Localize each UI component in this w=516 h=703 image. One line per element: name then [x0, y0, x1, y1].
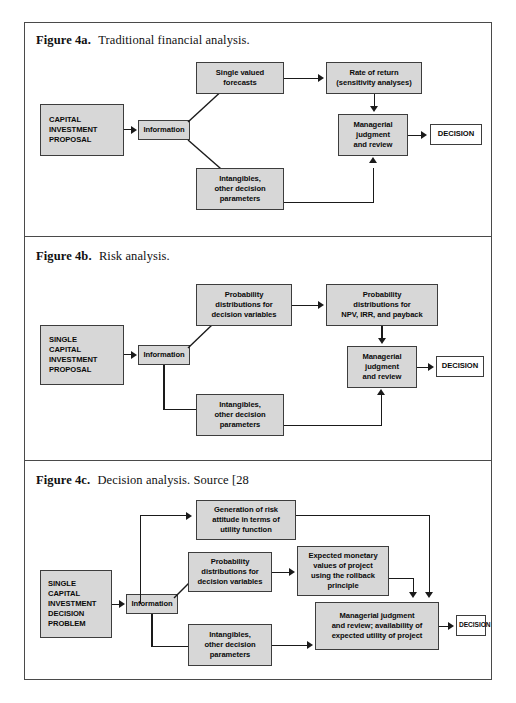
- fig4c-emv-line2: values of project: [300, 561, 386, 571]
- figure-4c-caption-label: Figure 4c.: [36, 473, 90, 487]
- fig4c-decision-label: DECISION: [459, 621, 483, 630]
- fig4a-arrowhead-managerial-bottom: [369, 157, 377, 163]
- figure-4b-caption-label: Figure 4b.: [36, 249, 92, 263]
- figure-4a-caption-text: Traditional financial analysis.: [94, 33, 250, 47]
- fig4a-intangibles-line2: other decision: [199, 184, 281, 194]
- fig4b-arrowhead-npv: [318, 301, 324, 309]
- fig4c-line-intangibles-to-managerial: [272, 645, 310, 646]
- fig4a-arrowhead-decision: [421, 131, 427, 139]
- fig4b-line-intangibles-right: [284, 425, 382, 426]
- fig4c-arrowhead-information: [119, 600, 125, 608]
- fig4a-arrowhead-managerial-top: [370, 106, 378, 112]
- fig4a-line-intangibles-right: [284, 202, 374, 203]
- fig4a-rate-line1: Rate of return: [329, 68, 419, 78]
- fig4b-managerial-line2: judgment: [350, 362, 414, 372]
- fig4b-node-information: Information: [138, 345, 190, 365]
- fig4b-npv-line2: distributions for: [329, 300, 435, 310]
- fig4b-node-npv-irr-payback: Probability distributions for NPV, IRR, …: [326, 284, 438, 326]
- fig4c-source-line3: INVESTMENT: [48, 599, 109, 609]
- fig4a-information-label: Information: [141, 125, 187, 135]
- fig4c-line-utility-down: [429, 515, 430, 594]
- fig4b-managerial-line1: Managerial: [350, 352, 414, 362]
- fig4c-arrowhead-emv: [289, 568, 295, 576]
- fig4c-managerial-line1: Managerial judgment: [318, 611, 436, 621]
- fig4c-managerial-line3: expected utility of project: [318, 631, 436, 641]
- fig4a-line-intangibles-up: [373, 168, 374, 203]
- fig4a-arrowhead-information: [131, 126, 137, 134]
- fig4a-forecasts-line2: forecasts: [199, 78, 281, 88]
- fig4b-source-line3: INVESTMENT: [49, 355, 121, 365]
- fig4b-source-line2: CAPITAL: [49, 345, 121, 355]
- fig4a-managerial-line3: and review: [341, 140, 405, 150]
- fig4b-arrowhead-decision: [428, 363, 434, 371]
- fig4a-node-decision: DECISION: [430, 124, 482, 145]
- fig4c-line-information-down: [151, 614, 152, 647]
- fig4c-emv-line4: principle: [300, 581, 386, 591]
- fig4a-source-line3: PROPOSAL: [49, 135, 121, 145]
- fig4a-node-capital-investment-proposal: CAPITAL INVESTMENT PROPOSAL: [40, 104, 124, 156]
- page-root: Figure 4a. Traditional financial analysi…: [0, 0, 516, 703]
- fig4a-source-line2: INVESTMENT: [49, 125, 121, 135]
- fig4c-source-line2: CAPITAL: [48, 589, 109, 599]
- fig4a-line-forecasts-to-rate: [284, 78, 320, 79]
- fig4a-arrowhead-rate-of-return: [318, 74, 324, 82]
- fig4b-node-decision: DECISION: [436, 356, 484, 377]
- figure-4b-caption-text: Risk analysis.: [95, 249, 170, 263]
- divider-4a-4b: [24, 236, 492, 237]
- fig4b-node-managerial-judgment: Managerial judgment and review: [347, 346, 417, 388]
- fig4a-managerial-line1: Managerial: [341, 120, 405, 130]
- fig4c-source-line1: SINGLE: [48, 579, 109, 589]
- divider-4b-4c: [24, 460, 492, 461]
- fig4c-intangibles-line2: other decision: [191, 640, 269, 650]
- fig4c-node-intangibles: Intangibles, other decision parameters: [188, 624, 272, 666]
- fig4c-intangibles-line1: Intangibles,: [191, 630, 269, 640]
- fig4b-managerial-line3: and review: [350, 372, 414, 382]
- fig4c-node-information: Information: [126, 594, 178, 614]
- fig4b-arrowhead-managerial-bottom: [377, 389, 385, 395]
- fig4b-node-probability-distributions: Probability distributions for decision v…: [196, 284, 292, 326]
- fig4b-probdist-line2: distributions for: [199, 300, 289, 310]
- fig4b-line-probdist-to-npv: [292, 305, 320, 306]
- fig4a-managerial-line2: judgment: [341, 130, 405, 140]
- fig4a-source-line1: CAPITAL: [49, 115, 121, 125]
- fig4b-arrowhead-managerial-top: [378, 338, 386, 344]
- fig4c-arrowhead-managerial-left: [307, 641, 313, 649]
- fig4c-emv-line3: using the rollback: [300, 571, 386, 581]
- fig4b-probdist-line1: Probability: [199, 290, 289, 300]
- fig4b-source-line4: PROPOSAL: [49, 365, 121, 375]
- fig4c-arrowhead-utility: [186, 512, 192, 520]
- fig4b-npv-line3: NPV, IRR, and payback: [329, 310, 435, 320]
- fig4c-node-generation-of-risk-attitude: Generation of risk attitude in terms of …: [196, 500, 296, 540]
- fig4b-node-intangibles: Intangibles, other decision parameters: [196, 394, 284, 436]
- fig4b-line-intangibles-up: [381, 394, 382, 426]
- fig4a-decision-label: DECISION: [433, 129, 479, 139]
- fig4a-intangibles-line3: parameters: [199, 194, 281, 204]
- fig4b-node-single-capital-investment-proposal: SINGLE CAPITAL INVESTMENT PROPOSAL: [40, 325, 124, 385]
- fig4a-node-intangibles: Intangibles, other decision parameters: [196, 168, 284, 210]
- fig4c-arrowhead-decision: [448, 622, 454, 630]
- fig4c-information-label: Information: [129, 599, 175, 609]
- fig4b-intangibles-line1: Intangibles,: [199, 400, 281, 410]
- fig4c-arrowhead-managerial-right: [425, 592, 433, 598]
- fig4a-forecasts-line1: Single valued: [199, 68, 281, 78]
- fig4c-node-decision: DECISION: [456, 615, 486, 636]
- fig4c-line-emv-right: [389, 578, 414, 579]
- fig4b-information-label: Information: [141, 350, 187, 360]
- fig4c-line-information-riser: [140, 594, 141, 604]
- figure-4b-caption: Figure 4b. Risk analysis.: [36, 249, 170, 264]
- figure-4c-caption: Figure 4c. Decision analysis. Source [28: [36, 473, 249, 488]
- fig4c-node-single-capital-investment-decision-problem: SINGLE CAPITAL INVESTMENT DECISION PROBL…: [40, 570, 112, 638]
- fig4a-node-rate-of-return: Rate of return (sensitivity analyses): [326, 62, 422, 94]
- fig4a-intangibles-line1: Intangibles,: [199, 174, 281, 184]
- fig4c-line-to-utility: [140, 515, 188, 516]
- fig4c-probdist-line2: distributions for: [191, 567, 269, 577]
- fig4b-line-information-to-intangibles: [163, 409, 196, 410]
- fig4b-decision-label: DECISION: [439, 361, 481, 371]
- fig4c-utility-line1: Generation of risk: [199, 505, 293, 515]
- fig4c-node-managerial-judgment: Managerial judgment and review; availabi…: [315, 602, 439, 650]
- fig4c-node-expected-monetary-values: Expected monetary values of project usin…: [297, 546, 389, 596]
- fig4a-node-single-valued-forecasts: Single valued forecasts: [196, 62, 284, 94]
- fig4c-probdist-line3: decision variables: [191, 577, 269, 587]
- fig4b-npv-line1: Probability: [329, 290, 435, 300]
- fig4c-source-line5: PROBLEM: [48, 619, 109, 629]
